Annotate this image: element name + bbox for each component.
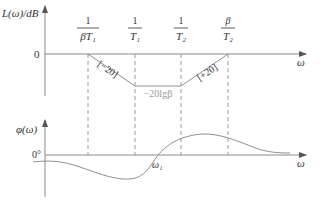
slope-falling-label: [−20]: [96, 58, 121, 80]
breakpoint-1-label: 1 βT₁: [77, 15, 99, 42]
breakpoint-2-numerator: 1: [133, 15, 138, 26]
breakpoint-3-numerator: 1: [179, 15, 184, 26]
breakpoint-4-denominator: T₂: [223, 30, 233, 42]
phase-x-axis-label: ω: [297, 157, 305, 169]
magnitude-y-axis-label: L(ω)/dB: [1, 7, 39, 20]
breakpoint-2-denominator: T₁: [130, 30, 140, 42]
phase-plot: φ(ω) 0° ω ω₁: [16, 120, 306, 197]
breakpoint-2-label: 1 T₁: [128, 15, 142, 42]
flat-level-label: −20lgβ: [144, 88, 173, 99]
magnitude-plot: L(ω)/dB 0 ω 1 βT₁ 1 T₁ 1 T₂ β T₂ [−20] […: [1, 6, 306, 99]
slope-rising-label: [+20]: [195, 61, 220, 83]
breakpoint-1-denominator: βT₁: [79, 30, 96, 42]
breakpoint-4-label: β T₂: [221, 15, 235, 42]
breakpoint-3-label: 1 T₂: [174, 15, 188, 42]
phase-curve: [33, 134, 290, 179]
zero-db-label: 0: [34, 48, 40, 60]
breakpoint-1-numerator: 1: [86, 15, 91, 26]
bode-diagram: L(ω)/dB 0 ω 1 βT₁ 1 T₁ 1 T₂ β T₂ [−20] […: [0, 0, 323, 201]
zero-degree-label: 0°: [32, 149, 41, 160]
breakpoint-3-denominator: T₂: [176, 30, 186, 42]
breakpoint-4-numerator: β: [225, 15, 231, 26]
magnitude-x-axis-label: ω: [297, 56, 305, 68]
phase-y-axis-label: φ(ω): [16, 123, 38, 136]
